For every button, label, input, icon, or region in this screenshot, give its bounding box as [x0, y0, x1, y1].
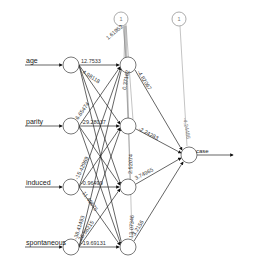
bias-label-1: 1	[120, 16, 123, 22]
input-hidden-edges	[79, 65, 122, 247]
input-label-spontaneous: spontaneous	[26, 239, 67, 247]
weight-h3-output: 3.74965	[134, 167, 154, 181]
bias-label-2: 1	[178, 16, 181, 22]
output-node	[181, 147, 197, 163]
weight-induced-h1: -15.42969	[74, 156, 90, 181]
weight-parity-h2: -29.28037	[81, 119, 106, 125]
weight-bias-output: -4.24486	[182, 117, 192, 139]
weight-spontaneous-h4: -19.69131	[81, 240, 106, 246]
weight-bias-other: 0.37162	[121, 70, 130, 91]
input-label-induced: induced	[26, 179, 51, 186]
weight-parity-h1: 6.65474	[74, 101, 90, 121]
input-node-age	[63, 57, 79, 73]
input-label-parity: parity	[26, 118, 44, 126]
weight-vertical-1: 2.52074	[127, 154, 134, 174]
input-arrows	[25, 65, 62, 247]
hidden-node-2	[120, 118, 136, 134]
hidden-node-4	[120, 239, 136, 255]
input-node-parity	[63, 118, 79, 134]
weight-vertical-2: 13.07346	[128, 215, 135, 238]
weight-age-h1: 12.7533	[81, 58, 101, 64]
hidden-output-edges	[134, 26, 187, 241]
weight-induced-h3: -0.96499	[81, 180, 103, 186]
hidden-node-3	[120, 179, 136, 195]
weight-h2-output: -2.24283	[138, 126, 160, 141]
output-label-case: case	[196, 148, 209, 154]
input-node-induced	[63, 179, 79, 195]
weight-h1-output: -4.82067	[136, 69, 153, 91]
input-label-age: age	[26, 57, 38, 65]
weight-bias-h1: 1.61952	[105, 23, 124, 40]
weight-induced-h4: 11.49675	[81, 190, 99, 212]
neural-network-diagram: 1 1 age parity induced spontaneous case …	[0, 0, 256, 267]
